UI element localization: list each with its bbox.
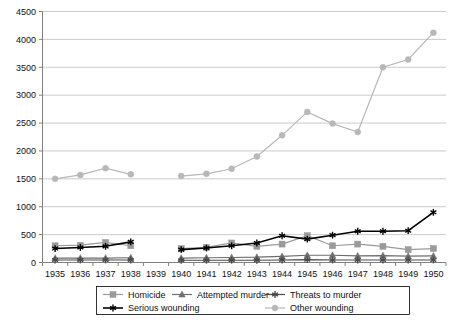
x-axis-tick-label: 1941 [196, 269, 216, 279]
data-point [52, 176, 58, 182]
legend-item-label: Other wounding [290, 303, 354, 313]
legend-item-label: Homicide [128, 290, 166, 300]
x-axis-tick-label: 1942 [222, 269, 242, 279]
y-axis-tick-label: 3000 [16, 90, 36, 100]
data-point [405, 247, 411, 253]
y-axis-tick-label: 1500 [16, 174, 36, 184]
data-point [304, 109, 310, 115]
data-point [355, 241, 361, 247]
series-attempted-murder [52, 252, 437, 261]
x-axis-tick-label: 1945 [297, 269, 317, 279]
data-series [52, 30, 437, 264]
y-axis-tick-label: 1000 [16, 202, 36, 212]
y-axis-tick-labels: 050010001500200025003000350040004500 [16, 7, 36, 268]
chart-legend: HomicideAttempted murderThreats to murde… [97, 287, 410, 315]
y-axis-tick-label: 4000 [16, 35, 36, 45]
x-axis-tick-label: 1940 [171, 269, 191, 279]
legend-item-label: Threats to murder [290, 290, 362, 300]
line-chart: 050010001500200025003000350040004500 193… [0, 0, 453, 323]
data-point [330, 121, 336, 127]
y-axis-tick-label: 0 [31, 258, 36, 268]
series-other-wounding [52, 30, 436, 182]
gridlines [43, 12, 447, 263]
data-point [229, 166, 235, 172]
x-axis-tick-label: 1944 [272, 269, 292, 279]
data-point [178, 173, 184, 179]
x-axis-tick-label: 1950 [423, 269, 443, 279]
y-axis-tick-label: 4500 [16, 7, 36, 17]
data-point [380, 243, 386, 249]
series-line [181, 212, 433, 249]
y-axis-tick-label: 2500 [16, 118, 36, 128]
x-axis-tick-label: 1937 [96, 269, 116, 279]
x-axis-tick-label: 1948 [373, 269, 393, 279]
data-point [128, 171, 134, 177]
chart-canvas: 050010001500200025003000350040004500 193… [0, 0, 453, 323]
data-point [203, 171, 209, 177]
x-axis-tick-label: 1947 [348, 269, 368, 279]
x-axis-tick-label: 1938 [121, 269, 141, 279]
x-axis-tick-label: 1946 [323, 269, 343, 279]
x-axis-tick-labels: 1935193619371938193919401941194219431944… [45, 269, 443, 279]
data-point [279, 241, 285, 247]
legend-marker-icon [110, 292, 116, 298]
data-point [254, 154, 260, 160]
data-point [279, 132, 285, 138]
series-line [55, 168, 131, 179]
series-line [181, 33, 433, 176]
y-axis-tick-label: 500 [21, 230, 36, 240]
legend-marker-icon [272, 305, 278, 311]
data-point [330, 243, 336, 249]
data-point [77, 172, 83, 178]
data-point [355, 129, 361, 135]
data-point [380, 64, 386, 70]
legend-item-label: Serious wounding [128, 303, 200, 313]
x-axis-tick-label: 1936 [70, 269, 90, 279]
y-axis-tick-label: 2000 [16, 146, 36, 156]
y-axis-tick-label: 3500 [16, 63, 36, 73]
legend-item-label: Attempted murder [197, 290, 269, 300]
x-axis-tick-label: 1939 [146, 269, 166, 279]
axes [39, 12, 446, 267]
data-point [103, 165, 109, 171]
data-point [405, 56, 411, 62]
x-axis-tick-label: 1935 [45, 269, 65, 279]
data-point [430, 246, 436, 252]
x-axis-tick-label: 1943 [247, 269, 267, 279]
x-axis-tick-label: 1949 [398, 269, 418, 279]
series-homicide [52, 233, 436, 253]
data-point [430, 30, 436, 36]
